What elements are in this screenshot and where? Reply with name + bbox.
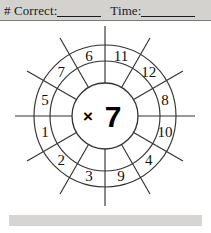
- sector-number[interactable]: 3: [85, 168, 93, 184]
- worksheet-page: # Correct: Time: 111281049321576 × 7: [0, 0, 211, 233]
- center-operator: ×: [83, 107, 93, 126]
- spoke-line: [27, 133, 76, 162]
- sector-number[interactable]: 4: [145, 152, 153, 168]
- correct-label: # Correct:: [4, 3, 57, 19]
- sector-number[interactable]: 9: [117, 168, 125, 184]
- correct-input-blank[interactable]: [57, 4, 101, 17]
- sector-number[interactable]: 7: [57, 64, 65, 80]
- sector-number[interactable]: 11: [114, 48, 128, 64]
- wheel-svg: 111281049321576 × 7: [0, 21, 211, 212]
- sector-number[interactable]: 8: [161, 92, 169, 108]
- sector-number[interactable]: 1: [41, 124, 49, 140]
- spoke-line: [27, 71, 76, 100]
- center-multiplier: 7: [105, 100, 122, 133]
- sector-number[interactable]: 10: [157, 124, 172, 140]
- time-label: Time:: [110, 3, 141, 19]
- sector-number[interactable]: 5: [41, 92, 49, 108]
- score-header: # Correct: Time:: [0, 0, 211, 21]
- sector-number[interactable]: 12: [141, 64, 156, 80]
- footer-band: [9, 215, 202, 226]
- multiplication-wheel: 111281049321576 × 7: [0, 21, 211, 212]
- sector-number[interactable]: 2: [57, 152, 65, 168]
- sector-number[interactable]: 6: [85, 48, 93, 64]
- time-input-blank[interactable]: [141, 4, 195, 17]
